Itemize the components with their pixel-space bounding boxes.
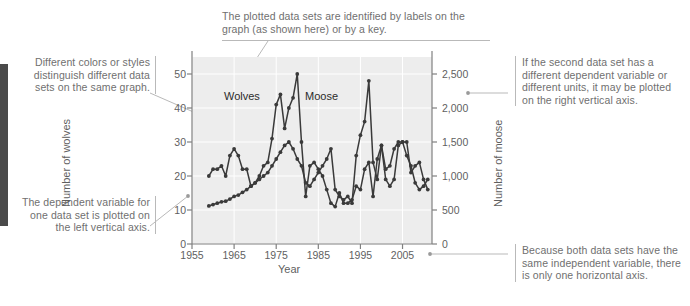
figure-root: The plotted data sets are identified by … [0,0,690,306]
x-tick-label: 2005 [391,249,414,261]
y-tick-label-left: 20 [174,170,186,182]
y-tick-label-left: 30 [174,136,186,148]
x-tick-label: 1975 [265,249,288,261]
x-tick-label: 1965 [222,249,245,261]
annotation-top: The plotted data sets are identified by … [222,10,494,35]
y-tick-label-right: 2,000 [442,102,468,114]
y-tick-label-left: 40 [174,102,186,114]
annotation-left-upper: Different colors or styles distinguish d… [18,56,150,94]
y-tick-label-right: 500 [442,204,460,216]
y-axis-right-title: Number of moose [492,120,504,207]
chart-axes [184,53,450,263]
annotation-left-lower-text: The dependent variable for one data set … [22,196,150,233]
annotation-rule [515,56,516,106]
annotation-rule [515,244,516,282]
y-tick-label-right: 2,500 [442,68,468,80]
series-label-wolves: Wolves [224,90,260,102]
y-tick-label-right: 0 [442,238,448,250]
annotation-left-upper-text: Different colors or styles distinguish d… [34,56,150,93]
x-tick-label: 1985 [307,249,330,261]
x-axis-title: Year [278,263,300,275]
annotation-right-lower-text: Because both data sets have the same ind… [522,244,681,281]
annotation-rule [155,196,156,234]
y-tick-label-left: 10 [174,204,186,216]
chart-ticks-right [432,74,437,244]
y-tick-label-left: 50 [174,68,186,80]
chart-ticks-left [187,74,192,244]
series-label-moose: Moose [305,90,338,102]
annotation-right-lower: Because both data sets have the same ind… [522,244,682,282]
annotation-left-lower: The dependent variable for one data set … [18,196,150,234]
annotation-top-text: The plotted data sets are identified by … [222,10,465,35]
annotation-right-upper: If the second data set has a different d… [522,56,682,106]
annotation-right-upper-text: If the second data set has a different d… [522,56,671,106]
y-axis-left-title: Number of wolves [60,119,72,207]
x-tick-label: 1995 [349,249,372,261]
y-tick-label-right: 1,000 [442,170,468,182]
y-tick-label-right: 1,500 [442,136,468,148]
chart-plot-area: 0102030405005001,0001,5002,0002,50019551… [192,57,432,244]
annotation-rule [155,56,156,94]
x-tick-label: 1955 [180,249,203,261]
